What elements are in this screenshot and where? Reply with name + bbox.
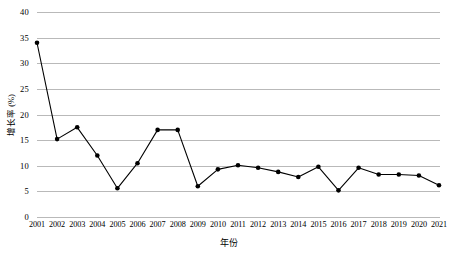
x-tick-label-2001: 2001	[29, 221, 45, 229]
data-point-2009	[196, 184, 201, 189]
y-tick-label-15: 15	[20, 136, 29, 145]
x-tick-label-2005: 2005	[109, 221, 125, 229]
y-tick-label-25: 25	[20, 85, 29, 94]
x-tick-label-2008: 2008	[170, 221, 186, 229]
data-point-2010	[216, 167, 221, 172]
x-tick-label-2009: 2009	[190, 221, 206, 229]
y-axis-tick-labels: 0510152025303540	[0, 12, 33, 217]
data-point-2012	[256, 166, 261, 171]
x-tick-label-2012: 2012	[250, 221, 266, 229]
x-tick-label-2011: 2011	[230, 221, 246, 229]
x-tick-label-2007: 2007	[150, 221, 166, 229]
gridline-0	[37, 217, 440, 218]
x-tick-label-2021: 2021	[431, 221, 447, 229]
data-point-2002	[55, 137, 60, 142]
data-point-2001	[35, 40, 40, 45]
data-point-2006	[135, 161, 140, 166]
x-tick-label-2019: 2019	[391, 221, 407, 229]
data-point-2013	[276, 170, 281, 175]
y-tick-label-35: 35	[20, 33, 29, 42]
x-tick-label-2020: 2020	[411, 221, 427, 229]
plot-area	[37, 12, 440, 217]
x-tick-label-2016: 2016	[331, 221, 347, 229]
y-tick-label-40: 40	[20, 8, 29, 17]
x-axis-tick-labels: 2001200220032004200520062007200820092010…	[37, 221, 440, 235]
data-point-2008	[175, 128, 180, 133]
y-tick-label-5: 5	[25, 187, 29, 196]
data-point-2020	[417, 173, 422, 178]
x-tick-label-2006: 2006	[130, 221, 146, 229]
data-point-2015	[316, 164, 321, 169]
data-point-2003	[75, 125, 80, 130]
data-point-2004	[95, 153, 100, 158]
x-axis-title: 年份	[0, 239, 457, 248]
y-tick-label-10: 10	[20, 162, 29, 171]
growth-rate-line-chart: 增长率 (%) 0510152025303540 200120022003200…	[0, 0, 457, 269]
data-point-2019	[397, 172, 402, 177]
data-point-2014	[296, 175, 301, 180]
y-tick-label-30: 30	[20, 59, 29, 68]
data-point-2011	[236, 163, 241, 168]
data-point-2018	[376, 172, 381, 177]
data-point-2021	[437, 183, 442, 188]
x-tick-label-2004: 2004	[89, 221, 105, 229]
x-tick-label-2015: 2015	[310, 221, 326, 229]
data-point-2017	[356, 166, 361, 171]
x-tick-label-2013: 2013	[270, 221, 286, 229]
data-point-2007	[155, 128, 160, 133]
series-layer	[37, 12, 440, 217]
data-point-2016	[336, 188, 341, 193]
x-tick-label-2017: 2017	[351, 221, 367, 229]
x-tick-label-2014: 2014	[290, 221, 306, 229]
y-tick-label-20: 20	[20, 110, 29, 119]
x-tick-label-2002: 2002	[49, 221, 65, 229]
data-point-2005	[115, 186, 120, 191]
x-tick-label-2018: 2018	[371, 221, 387, 229]
x-tick-label-2003: 2003	[69, 221, 85, 229]
x-tick-label-2010: 2010	[210, 221, 226, 229]
series-line	[37, 43, 439, 191]
